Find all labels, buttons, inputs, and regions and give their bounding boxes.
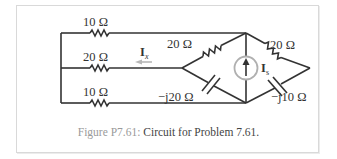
current-ix-arrow <box>135 60 152 65</box>
caption-tag: Figure P7.61: <box>78 126 141 138</box>
middle-branch <box>61 65 182 71</box>
top-branch <box>61 30 246 36</box>
label-r-diamond-right: 20 Ω <box>270 38 295 52</box>
resistor-20-mid <box>90 65 109 71</box>
bottom-branch <box>61 100 246 106</box>
resistor-10-bot <box>90 100 109 106</box>
label-c-left: −j20 Ω <box>158 90 193 104</box>
figure-caption: Figure P7.61: Circuit for Problem 7.61. <box>0 126 337 138</box>
current-source <box>235 57 258 80</box>
arrow-left-icon <box>135 60 142 65</box>
label-r-diamond-left: 20 Ω <box>167 37 192 51</box>
label-r-mid: 20 Ω <box>83 50 108 64</box>
label-c-right: −j10 Ω <box>271 90 306 104</box>
resistor-10-top <box>90 30 109 36</box>
label-ix: Ix <box>140 45 149 61</box>
label-r-top: 10 Ω <box>83 15 108 29</box>
label-r-bot: 10 Ω <box>83 85 108 99</box>
label-is: Is <box>261 61 269 77</box>
caption-text: Circuit for Problem 7.61. <box>140 126 259 138</box>
